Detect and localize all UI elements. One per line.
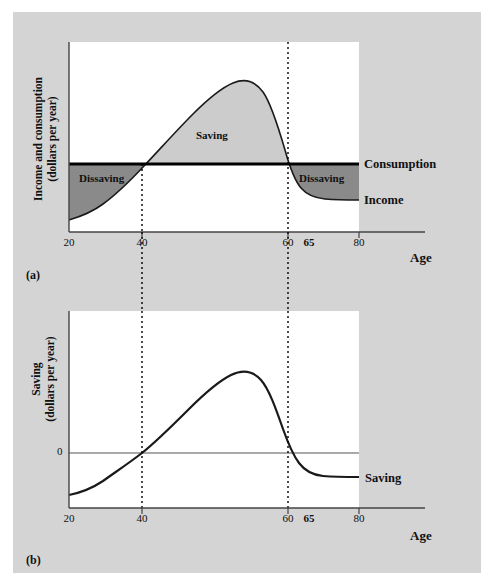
panel-a-xtick-65: 65 [294,236,324,248]
panel-a: Income and consumption (dollars per year… [0,0,494,290]
saving-series-label: Saving [365,471,401,486]
dissaving-left-label: Dissaving [79,172,124,184]
panel-b-tag: (b) [26,553,41,568]
consumption-series-label: Consumption [364,157,436,172]
saving-curve [69,372,359,495]
saving-label: Saving [196,129,228,141]
panel-a-x-axis-caption: Age [410,250,432,266]
panel-b-xtick-80: 80 [344,512,374,524]
panel-b-x-axis-caption: Age [410,528,432,544]
panel-b-xtick-20: 20 [54,512,84,524]
panel-b-plot-area [69,311,359,508]
panel-b-svg [69,311,359,508]
panel-a-xtick-40: 40 [127,236,157,248]
figure-root: Income and consumption (dollars per year… [0,0,494,585]
panel-b-y-axis-label-line2: (dollars per year) [43,314,57,444]
panel-a-xtick-80: 80 [344,236,374,248]
panel-b-ytick-zero: 0 [57,445,63,457]
panel-a-y-axis-label-line2: (dollars per year) [45,64,59,214]
dissaving-right-label: Dissaving [299,172,344,184]
panel-a-y-axis-label: Income and consumption (dollars per year… [31,64,59,214]
panel-b: Saving (dollars per year) 0 Saving [0,290,494,585]
panel-b-xtick-40: 40 [127,512,157,524]
income-series-label: Income [364,193,404,208]
panel-a-y-axis-label-line1: Income and consumption [31,64,45,214]
panel-b-y-axis-label-line1: Saving [29,314,43,444]
panel-a-saving-region [69,81,359,220]
panel-a-xtick-20: 20 [54,236,84,248]
panel-b-y-axis-label: Saving (dollars per year) [29,314,57,444]
panel-b-xtick-65: 65 [294,512,324,524]
panel-a-tag: (a) [26,268,40,283]
